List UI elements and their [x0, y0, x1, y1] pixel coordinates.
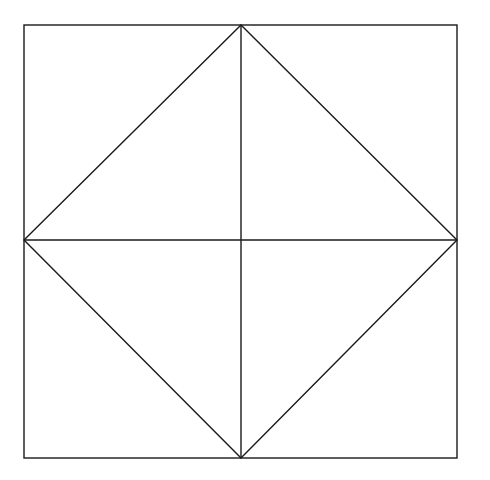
diagram-canvas [0, 0, 490, 480]
diagram-svg [0, 0, 490, 480]
